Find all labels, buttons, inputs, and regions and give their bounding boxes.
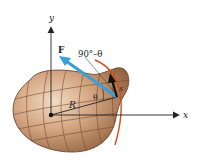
theta-label: θ bbox=[93, 93, 98, 102]
y-axis-label: y bbox=[48, 13, 55, 23]
x-axis-label: x bbox=[183, 110, 188, 120]
angle-complement-label: 90°–θ bbox=[78, 49, 102, 59]
force-label: F bbox=[58, 45, 65, 55]
radius-label: R bbox=[68, 100, 76, 110]
origin-point bbox=[49, 113, 53, 117]
arc-length-label: s bbox=[119, 84, 123, 93]
torque-diagram: y x R θ F 90°–θ s bbox=[0, 0, 202, 166]
